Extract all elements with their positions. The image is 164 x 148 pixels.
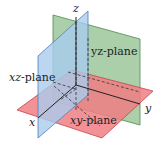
xz-plane-label: xz-plane xyxy=(9,71,55,84)
yz-plane-label: yz-plane xyxy=(90,45,137,58)
x-axis-label: x xyxy=(29,116,36,129)
z-axis-label: z xyxy=(72,2,79,15)
xy-plane-label: xy-plane xyxy=(70,114,117,127)
coordinate-planes-diagram: z y x yz-plane xz-plane xy-plane xyxy=(0,0,164,148)
y-axis-label: y xyxy=(144,102,152,115)
